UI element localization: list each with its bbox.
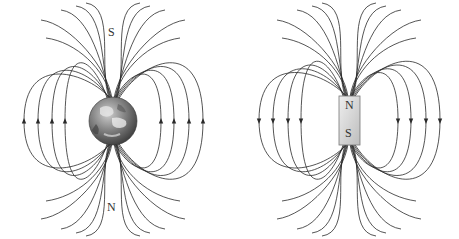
magnet-south-label: S bbox=[345, 126, 352, 141]
magnet-north-label: N bbox=[345, 98, 354, 113]
earth-bottom-label-north: N bbox=[107, 200, 116, 215]
magnetic-field-diagrams bbox=[0, 0, 459, 239]
earth-globe bbox=[89, 97, 137, 145]
earth-top-label-south: S bbox=[108, 25, 115, 40]
